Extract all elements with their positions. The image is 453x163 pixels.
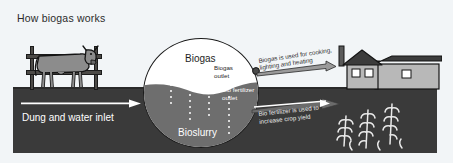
farmhouse-illustration <box>330 44 442 90</box>
label-biogas-outlet-line1: Biogas <box>214 64 233 72</box>
crop-field-illustration <box>330 96 416 152</box>
label-dung-inlet: Dung and water inlet <box>22 112 114 123</box>
cow-illustration <box>33 43 99 89</box>
biogas-diagram: How biogas works <box>0 0 453 163</box>
label-biogas-outlet: Biogas outlet <box>214 64 233 79</box>
label-bioslurry: Bioslurry <box>178 127 217 138</box>
label-biogas-outlet-line2: outlet <box>214 72 233 80</box>
figure-title: How biogas works <box>17 12 105 24</box>
dung-inlet-arrow-icon <box>21 99 145 109</box>
label-biogas: Biogas <box>185 53 216 64</box>
label-biofertilizer-outlet-line1: Bio fertilizer <box>222 86 254 94</box>
